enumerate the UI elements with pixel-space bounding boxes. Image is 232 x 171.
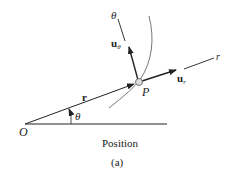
unit-vector-utheta-label: uθ [111,38,121,51]
r-axis-line [184,58,214,69]
unit-vector-utheta-arrow [129,47,138,80]
angle-theta-label: θ [75,111,80,122]
polar-coordinates-diagram: O θ r P θ r uθ ur Position (a) [0,0,232,171]
unit-vector-ur-label: ur [177,73,186,86]
caption-title: Position [102,138,138,149]
ur-subscript: r [183,78,186,86]
r-axis-label: r [216,52,220,62]
theta-axis-label: θ [111,10,116,21]
position-vector-label: r [82,92,87,103]
unit-vector-ur-arrow [142,70,176,81]
origin-label: O [19,126,28,138]
caption-label: (a) [111,157,123,168]
utheta-subscript: θ [117,43,120,51]
point-p-label: P [142,86,149,98]
angle-theta-arc [69,109,71,124]
